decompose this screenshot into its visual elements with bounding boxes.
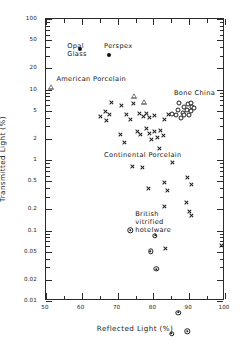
british-vitrified-hotelware-label: British vitrified hotelware xyxy=(135,210,171,235)
x-axis-minor-tick xyxy=(207,296,208,300)
y-axis-tick xyxy=(217,90,223,91)
data-point-cross xyxy=(149,137,154,142)
y-axis-tick-label: 1 xyxy=(0,156,37,162)
scatter-chart: Transmitted Light (%) Reflected Light (%… xyxy=(0,0,246,344)
data-point-cross xyxy=(140,165,145,170)
y-axis-tick-label: 0.1 xyxy=(0,227,37,233)
y-axis-minor-tick xyxy=(220,118,224,119)
x-axis-tick xyxy=(189,19,190,25)
y-axis-minor-tick xyxy=(46,105,50,106)
data-point-circled-dot xyxy=(127,227,132,232)
y-axis-tick-label: 10 xyxy=(0,86,37,92)
y-axis-minor-tick xyxy=(220,188,224,189)
data-point-cross xyxy=(138,132,143,137)
y-axis-minor-tick xyxy=(46,197,50,198)
x-axis-minor-tick xyxy=(64,296,65,300)
y-axis-tick xyxy=(217,252,223,253)
y-axis-tick xyxy=(46,209,52,210)
y-axis-tick-label: 0.5 xyxy=(0,177,37,183)
y-axis-minor-tick xyxy=(220,35,224,36)
y-axis-minor-tick xyxy=(46,241,50,242)
data-point-cross xyxy=(189,182,194,187)
y-axis-minor-tick xyxy=(46,237,50,238)
y-axis-minor-tick xyxy=(46,234,50,235)
data-point-cross xyxy=(122,140,127,145)
y-axis-minor-tick xyxy=(220,259,224,260)
perspex-label: Perspex xyxy=(104,42,132,50)
y-axis-minor-tick xyxy=(220,176,224,177)
y-axis-minor-tick xyxy=(46,56,50,57)
x-axis-title: Reflected Light (%) xyxy=(97,324,173,333)
x-axis-tick-label: 90 xyxy=(184,304,191,310)
y-axis-minor-tick xyxy=(46,267,50,268)
x-axis-tick xyxy=(46,293,47,299)
y-axis-minor-tick xyxy=(46,259,50,260)
x-axis-minor-tick xyxy=(100,296,101,300)
data-point-cross xyxy=(131,101,136,106)
y-axis-minor-tick xyxy=(220,47,224,48)
y-axis-tick xyxy=(46,139,52,140)
data-point-cross xyxy=(128,117,133,122)
y-axis-tick xyxy=(46,252,52,253)
y-axis-tick xyxy=(217,40,223,41)
data-point-cross xyxy=(118,132,123,137)
x-axis-minor-tick xyxy=(136,296,137,300)
y-axis-tick-label: 5 xyxy=(0,107,37,113)
y-axis-tick xyxy=(46,301,52,302)
y-axis-minor-tick xyxy=(220,30,224,31)
y-axis-tick-label: 0.01 xyxy=(0,297,37,303)
x-axis-minor-tick xyxy=(136,19,137,23)
y-axis-tick xyxy=(46,160,52,161)
y-axis-minor-tick xyxy=(46,167,50,168)
y-axis-tick xyxy=(217,19,223,20)
y-axis-tick xyxy=(46,231,52,232)
data-point-filled-circle xyxy=(107,53,111,57)
data-point-open-circle xyxy=(188,109,193,114)
y-axis-tick-label: 100 xyxy=(0,15,37,21)
data-point-cross xyxy=(155,135,160,140)
y-axis-minor-tick xyxy=(220,267,224,268)
y-axis-minor-tick xyxy=(46,35,50,36)
x-axis-tick xyxy=(153,293,154,299)
data-point-cross xyxy=(152,113,157,118)
y-axis-tick xyxy=(46,68,52,69)
y-axis-minor-tick xyxy=(220,234,224,235)
y-axis-minor-tick xyxy=(46,118,50,119)
data-point-circled-dot xyxy=(154,266,159,271)
x-axis-minor-tick xyxy=(100,19,101,23)
y-axis-minor-tick xyxy=(220,22,224,23)
x-axis-tick xyxy=(189,293,190,299)
y-axis-tick xyxy=(217,68,223,69)
y-axis-minor-tick xyxy=(46,126,50,127)
y-axis-tick xyxy=(46,181,52,182)
data-point-cross xyxy=(162,180,167,185)
x-axis-tick-label: 70 xyxy=(113,304,120,310)
y-axis-minor-tick xyxy=(220,163,224,164)
y-axis-tick-label: 0.05 xyxy=(0,248,37,254)
data-point-cross xyxy=(184,200,189,205)
y-axis-minor-tick xyxy=(46,163,50,164)
data-point-cross xyxy=(146,186,151,191)
data-point-cross xyxy=(162,204,167,209)
data-point-cross xyxy=(219,243,224,248)
x-axis-tick xyxy=(46,19,47,25)
y-axis-tick-label: 0.02 xyxy=(0,276,37,282)
data-point-open-circle xyxy=(177,101,182,106)
y-axis-minor-tick xyxy=(220,93,224,94)
y-axis-minor-tick xyxy=(220,96,224,97)
x-axis-tick-label: 100 xyxy=(218,304,229,310)
y-axis-minor-tick xyxy=(46,47,50,48)
y-axis-minor-tick xyxy=(46,96,50,97)
x-axis-minor-tick xyxy=(171,296,172,300)
y-axis-tick xyxy=(46,280,52,281)
y-axis-minor-tick xyxy=(46,246,50,247)
data-point-circled-dot xyxy=(185,329,190,334)
x-axis-tick xyxy=(118,293,119,299)
y-axis-minor-tick xyxy=(46,26,50,27)
x-axis-tick xyxy=(118,19,119,25)
data-point-cross xyxy=(161,133,166,138)
y-axis-tick xyxy=(217,111,223,112)
data-point-cross xyxy=(130,164,135,169)
y-axis-minor-tick xyxy=(220,171,224,172)
y-axis-tick xyxy=(217,231,223,232)
